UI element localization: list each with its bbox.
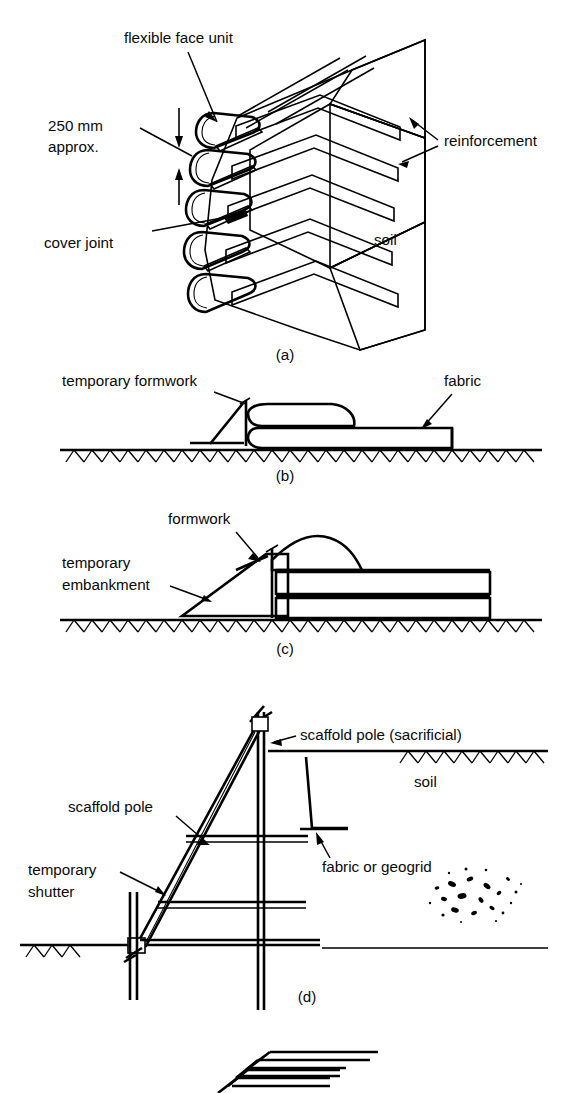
panel-d-raking-pole [136, 706, 272, 946]
label-approx: approx. [48, 138, 99, 155]
panel-b-upper-fill-layer [248, 404, 354, 426]
label-temporary-formwork: temporary formwork [62, 372, 197, 389]
panel-b-lower-fill-layer [248, 428, 452, 448]
panel-b-ground [60, 450, 542, 462]
panel-c-ground [60, 620, 542, 632]
label-temporary-embankment-2: embankment [62, 576, 151, 593]
panel-a-reinforcement-layers [226, 56, 400, 307]
label-fabric: fabric [444, 372, 482, 389]
panel-c-labels: formwork temporary embankment (c) [62, 510, 294, 657]
label-scaffold-pole-sacrificial: scaffold pole (sacrificial) [300, 726, 462, 743]
panel-d-geogrid-layers [140, 757, 348, 940]
panel-d-labels: scaffold pole (sacrificial) soil scaffol… [28, 726, 462, 1005]
label-fabric-or-geogrid: fabric or geogrid [322, 858, 432, 875]
figure-root: flexible face unit 250 mm approx. cover … [0, 0, 586, 1093]
panel-d-gravel-cluster [429, 868, 522, 924]
label-soil-d: soil [414, 773, 437, 790]
panel-d-lower-ground [20, 945, 548, 957]
panel-b-temporary-formwork [210, 398, 250, 446]
panel-d-top-coupler [252, 717, 268, 731]
panel-d-upper-ground [268, 751, 548, 763]
label-250mm: 250 mm [48, 117, 103, 134]
panel-a: flexible face unit 250 mm approx. cover … [44, 29, 538, 363]
label-reinforcement: reinforcement [444, 132, 538, 149]
panel-caption-a: (a) [276, 346, 295, 363]
panel-d: scaffold pole (sacrificial) soil scaffol… [20, 706, 548, 1010]
label-soil: soil [374, 231, 397, 248]
panel-c-upper-fill-layer [276, 572, 490, 594]
panel-e-partial [218, 1052, 378, 1093]
panel-c: formwork temporary embankment (c) [60, 510, 542, 657]
figure-svg: flexible face unit 250 mm approx. cover … [0, 0, 586, 1093]
label-formwork: formwork [168, 510, 231, 527]
label-scaffold-pole: scaffold pole [68, 798, 153, 815]
panel-b: temporary formwork fabric (b) [60, 372, 542, 484]
panel-d-sacrificial-pole [258, 712, 264, 1010]
panel-caption-c: (c) [276, 640, 294, 657]
label-flexible-face-unit: flexible face unit [124, 29, 234, 46]
label-cover-joint: cover joint [44, 234, 114, 251]
panel-caption-b: (b) [276, 467, 295, 484]
panel-c-lower-fill-layer [276, 598, 490, 618]
label-temporary-shutter-1: temporary [28, 861, 97, 878]
panel-caption-d: (d) [298, 988, 317, 1005]
label-temporary-embankment-1: temporary [62, 554, 131, 571]
label-temporary-shutter-2: shutter [28, 883, 74, 900]
